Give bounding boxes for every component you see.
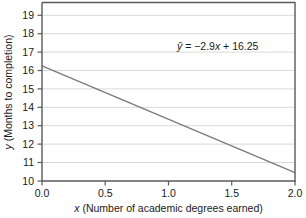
y-tick-label: 12 — [22, 138, 34, 150]
chart-svg: 10 11 12 13 14 15 16 17 18 19 0.0 0.5 1.… — [0, 0, 306, 218]
y-axis-title: y (Months to completion) — [2, 35, 14, 151]
regression-equation-annotation: ŷ = −2.9x + 16.25 — [176, 40, 259, 52]
y-tick-label: 11 — [23, 156, 34, 168]
y-tick-label: 17 — [22, 46, 34, 58]
plot-area-background — [42, 3, 296, 182]
x-axis-title-rest: (Number of academic degrees earned) — [79, 202, 262, 214]
y-tick-label: 15 — [22, 83, 34, 95]
y-tick-label: 19 — [22, 9, 34, 21]
x-tick-label: 1.0 — [161, 187, 176, 199]
equation-intercept: + 16.25 — [220, 40, 258, 52]
x-tick-label: 0.0 — [35, 187, 50, 199]
y-axis-title-rest: (Months to completion) — [2, 35, 14, 145]
x-tick-label: 2.0 — [288, 187, 303, 199]
x-tick-label: 1.5 — [224, 187, 239, 199]
chart-figure: 10 11 12 13 14 15 16 17 18 19 0.0 0.5 1.… — [0, 0, 306, 218]
equation-slope: = −2.9 — [182, 40, 215, 52]
y-tick-label: 18 — [22, 27, 34, 39]
x-axis-title: x (Number of academic degrees earned) — [73, 202, 263, 214]
x-tick-label: 0.5 — [98, 187, 113, 199]
y-tick-label: 16 — [22, 64, 34, 76]
y-tick-label: 10 — [22, 175, 34, 187]
y-tick-label: 13 — [22, 119, 34, 131]
y-tick-label: 14 — [22, 101, 34, 113]
